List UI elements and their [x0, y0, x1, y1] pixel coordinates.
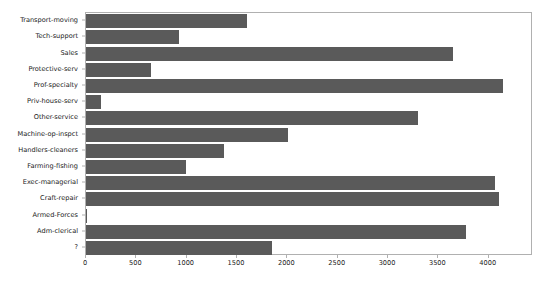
bar — [86, 95, 101, 109]
plot-area — [85, 12, 532, 255]
x-axis-tick-label: 0 — [83, 259, 87, 267]
y-axis-tick-label: Machine-op-inspct — [17, 130, 78, 138]
x-axis-tick-mark — [85, 255, 86, 258]
y-axis-tick-label: Exec-managerial — [23, 178, 78, 186]
bar-row — [86, 128, 533, 142]
bar-row — [86, 144, 533, 158]
x-axis-tick-mark — [387, 255, 388, 258]
bar-row — [86, 79, 533, 93]
bars-container — [86, 13, 531, 254]
bar-chart-figure: Transport-movingTech-supportSalesProtect… — [0, 0, 542, 281]
bar-row — [86, 192, 533, 206]
y-axis-tick-label: Adm-clerical — [37, 227, 78, 235]
x-axis-tick-label: 500 — [129, 259, 142, 267]
bar — [86, 176, 495, 190]
bar-row — [86, 241, 533, 255]
bar-row — [86, 160, 533, 174]
bar — [86, 209, 87, 223]
x-axis-tick-mark — [186, 255, 187, 258]
bar-row — [86, 30, 533, 44]
bar — [86, 30, 179, 44]
y-axis-tick-label: Transport-moving — [20, 16, 78, 24]
x-axis-tick-mark — [236, 255, 237, 258]
bar-row — [86, 47, 533, 61]
y-axis-tick-label: Handlers-cleaners — [18, 146, 78, 154]
y-axis-tick-label: Craft-repair — [40, 194, 78, 202]
y-axis-tick-label: Armed-Forces — [33, 211, 78, 219]
x-axis-tick-mark — [437, 255, 438, 258]
bar-row — [86, 95, 533, 109]
bar-row — [86, 225, 533, 239]
bar-row — [86, 63, 533, 77]
bar — [86, 63, 151, 77]
y-axis-tick-container: Transport-movingTech-supportSalesProtect… — [0, 12, 85, 255]
x-axis-tick-mark — [488, 255, 489, 258]
x-axis-tick-label: 3500 — [429, 259, 446, 267]
x-axis-tick-label: 2500 — [328, 259, 345, 267]
y-axis-tick-label: Other-service — [34, 113, 78, 121]
x-axis-tick-mark — [135, 255, 136, 258]
bar — [86, 111, 418, 125]
x-axis-tick-label: 4000 — [479, 259, 496, 267]
bar — [86, 241, 272, 255]
bar — [86, 14, 247, 28]
bar-row — [86, 111, 533, 125]
bar — [86, 47, 453, 61]
y-axis-tick-label: Priv-house-serv — [27, 97, 78, 105]
bar — [86, 79, 503, 93]
y-axis-tick-label: Protective-serv — [28, 65, 78, 73]
bar — [86, 160, 186, 174]
x-axis-tick-label: 2000 — [278, 259, 295, 267]
y-axis-tick-label: Farming-fishing — [27, 162, 78, 170]
bar-row — [86, 176, 533, 190]
x-axis-tick-mark — [337, 255, 338, 258]
x-axis-tick-label: 1000 — [177, 259, 194, 267]
y-axis-tick-label: Prof-specialty — [34, 81, 78, 89]
y-axis-tick-label: ? — [75, 243, 79, 251]
x-axis-tick-label: 3000 — [379, 259, 396, 267]
y-axis-tick-label: Tech-support — [36, 32, 78, 40]
bar — [86, 128, 288, 142]
bar — [86, 192, 499, 206]
x-axis-tick-mark — [286, 255, 287, 258]
bar — [86, 144, 224, 158]
y-axis-tick-label: Sales — [60, 49, 78, 57]
x-axis-tick-container: 05001000150020002500300035004000 — [85, 255, 532, 275]
bar-row — [86, 209, 533, 223]
bar-row — [86, 14, 533, 28]
bar — [86, 225, 466, 239]
x-axis-tick-label: 1500 — [228, 259, 245, 267]
